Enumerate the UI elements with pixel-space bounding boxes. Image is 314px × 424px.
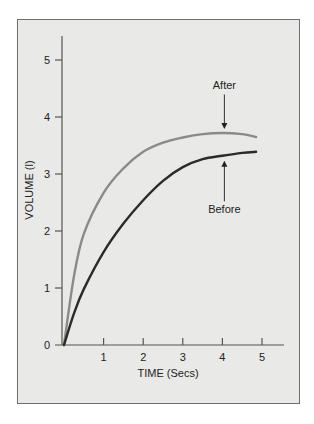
line-chart: 01234512345 AfterBefore TIME (Secs) VOLU… <box>0 0 314 424</box>
annotation-after-label: After <box>213 79 237 91</box>
x-tick-label: 1 <box>101 351 107 363</box>
x-tick-label: 5 <box>259 351 265 363</box>
y-axis-title: VOLUME (l) <box>23 160 35 219</box>
annotation-before-label: Before <box>208 203 240 215</box>
annotations: AfterBefore <box>208 79 240 216</box>
x-axis-title: TIME (Secs) <box>137 367 198 379</box>
series-before-line <box>64 152 256 345</box>
series-after-line <box>64 133 256 345</box>
y-tick-label: 4 <box>44 111 50 123</box>
series-lines <box>64 133 256 345</box>
y-tick-label: 1 <box>44 282 50 294</box>
axes: 01234512345 <box>44 36 284 363</box>
arrowhead-down-icon <box>221 123 227 129</box>
y-tick-label: 2 <box>44 225 50 237</box>
y-tick-label: 3 <box>44 168 50 180</box>
x-tick-label: 4 <box>219 351 225 363</box>
y-tick-label: 5 <box>44 54 50 66</box>
arrowhead-up-icon <box>221 161 227 167</box>
x-tick-label: 3 <box>180 351 186 363</box>
x-tick-label: 2 <box>140 351 146 363</box>
y-tick-label: 0 <box>44 339 50 351</box>
